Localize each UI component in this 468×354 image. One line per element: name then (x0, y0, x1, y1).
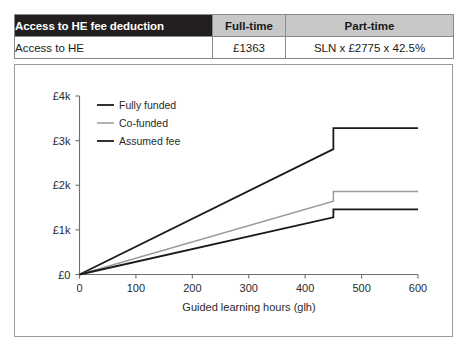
table-cell-label: Access to HE (15, 37, 213, 59)
series-line-fully-funded (80, 128, 419, 274)
legend-label-co-funded: Co-funded (119, 117, 168, 129)
y-tick-label: £0 (58, 269, 70, 281)
x-tick-label: 400 (296, 282, 314, 294)
table-header-cell-full-time: Full-time (213, 15, 286, 37)
table-header-cell-part-time: Part-time (286, 15, 454, 37)
legend-label-fully-funded: Fully funded (119, 99, 176, 111)
y-tick-label: £2k (53, 179, 71, 191)
chart-panel: £0£1k£2k£3k£4k 0100200300400500600 Fully… (14, 64, 453, 337)
table-header-cell-category: Access to HE fee deduction (15, 15, 213, 37)
x-tick-label: 600 (409, 282, 427, 294)
table-cell-full-time: £1363 (213, 37, 286, 59)
y-tick-label: £4k (53, 90, 71, 102)
x-tick-label: 0 (76, 282, 82, 294)
x-tick-label: 100 (127, 282, 145, 294)
funding-line-chart: £0£1k£2k£3k£4k 0100200300400500600 Fully… (15, 65, 452, 336)
series-line-co-funded (80, 192, 419, 275)
legend-label-assumed-fee: Assumed fee (119, 135, 180, 147)
x-tick-label: 500 (352, 282, 370, 294)
y-tick-label: £1k (53, 224, 71, 236)
y-tick-label: £3k (53, 135, 71, 147)
x-tick-label: 200 (183, 282, 201, 294)
x-axis-ticks: 0100200300400500600 (76, 275, 427, 294)
table-cell-part-time: SLN x £2775 x 42.5% (286, 37, 454, 59)
chart-legend: Fully fundedCo-fundedAssumed fee (97, 99, 180, 147)
x-tick-label: 300 (240, 282, 258, 294)
table-row: Access to HE £1363 SLN x £2775 x 42.5% (15, 37, 454, 59)
table-header-row: Access to HE fee deduction Full-time Par… (15, 15, 454, 37)
series-line-assumed-fee (80, 209, 419, 274)
chart-series-group (80, 128, 419, 274)
y-axis-ticks: £0£1k£2k£3k£4k (53, 90, 80, 281)
x-axis-title: Guided learning hours (glh) (182, 301, 315, 313)
fee-deduction-table: Access to HE fee deduction Full-time Par… (14, 14, 454, 59)
